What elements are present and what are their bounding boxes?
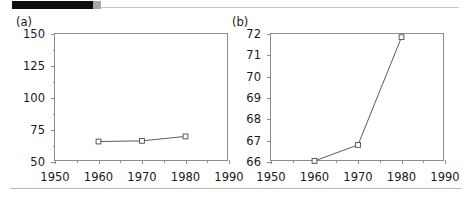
data-point-marker: [399, 35, 404, 40]
x-tick-label: 1980: [171, 170, 200, 184]
y-tick-label: 72: [246, 27, 261, 41]
plot-area-a: 507510012515019501960197019801990: [54, 33, 228, 161]
x-tick-label: 1950: [256, 170, 285, 184]
y-tick-label: 150: [23, 27, 45, 41]
y-tick-label: 125: [23, 59, 45, 73]
y-tick-label: 67: [246, 134, 261, 148]
x-tick-label: 1990: [430, 170, 459, 184]
data-point-marker: [183, 134, 188, 139]
chart-panel-a: (a) 507510012515019501960197019801990: [0, 0, 236, 198]
figure-page: (a) 507510012515019501960197019801990 (b…: [0, 0, 472, 198]
y-tick-label: 69: [246, 91, 261, 105]
x-tick-label: 1970: [343, 170, 372, 184]
data-point-marker: [312, 159, 317, 164]
x-tick-label: 1960: [300, 170, 329, 184]
y-tick-label: 66: [246, 155, 261, 169]
x-tick-label: 1980: [387, 170, 416, 184]
y-tick-label: 100: [23, 91, 45, 105]
y-tick-label: 68: [246, 112, 261, 126]
chart-panel-b: (b) 6667686970717219501960197019801990: [222, 0, 472, 198]
data-point-marker: [356, 143, 361, 148]
y-tick-label: 50: [30, 155, 45, 169]
plot-area-b: 6667686970717219501960197019801990: [270, 33, 444, 161]
data-point-marker: [140, 138, 145, 143]
x-tick-major: [445, 160, 446, 164]
y-tick-label: 70: [246, 70, 261, 84]
footer-rule: [10, 188, 462, 189]
x-tick-label: 1970: [127, 170, 156, 184]
data-series: [55, 34, 229, 162]
x-tick-label: 1960: [84, 170, 113, 184]
data-point-marker: [96, 139, 101, 144]
x-tick-label: 1950: [40, 170, 69, 184]
data-series: [271, 34, 445, 162]
y-tick-label: 71: [246, 48, 261, 62]
y-tick-label: 75: [30, 123, 45, 137]
